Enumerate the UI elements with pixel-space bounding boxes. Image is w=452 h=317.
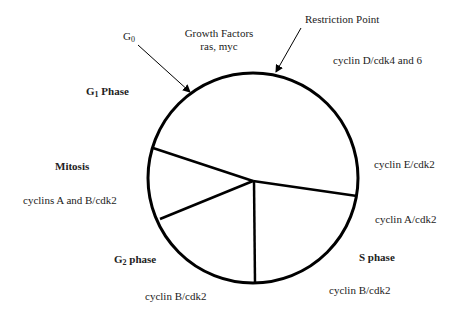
s-phase-label: S phase: [359, 251, 395, 264]
divider-mitosis-g2: [160, 181, 253, 219]
growth-factors-label: Growth Factors ras, myc: [178, 27, 260, 53]
cycle-circle: [148, 73, 358, 283]
mitosis-label: Mitosis: [55, 160, 89, 173]
cyclin-e-label: cyclin E/cdk2: [374, 158, 435, 171]
g0-main: G: [123, 30, 131, 42]
growth-factors-line1: Growth Factors: [178, 27, 260, 40]
divider-s-g1: [253, 181, 357, 196]
g1-main: G: [86, 85, 95, 97]
divider-g1-mitosis: [153, 148, 253, 181]
cyclins-a-b-label: cyclins A and B/cdk2: [23, 194, 117, 207]
divider-g2-s: [254, 181, 255, 283]
g1-rest: Phase: [99, 85, 129, 97]
cyclin-a-label: cyclin A/cdk2: [375, 213, 436, 226]
cyclin-b-s-label: cyclin B/cdk2: [329, 284, 390, 297]
g0-sub: 0: [131, 35, 135, 44]
cyclin-b-g2-label: cyclin B/cdk2: [145, 290, 206, 303]
restriction-point-label: Restriction Point: [305, 13, 379, 26]
g2-rest: phase: [127, 253, 157, 265]
g2-main: G: [114, 253, 123, 265]
g2-phase-label: G2 phase: [114, 253, 156, 266]
cyclin-d-label: cyclin D/cdk4 and 6: [333, 54, 422, 67]
g0-label: G0: [123, 30, 135, 43]
g1-phase-label: G1 Phase: [86, 85, 129, 98]
growth-factors-line2: ras, myc: [178, 40, 260, 53]
restriction-point-arrow: [276, 28, 301, 72]
